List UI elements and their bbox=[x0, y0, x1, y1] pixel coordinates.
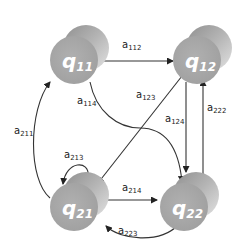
node-q11[interactable]: q11 bbox=[50, 25, 109, 84]
edge-a211 bbox=[34, 82, 51, 198]
state-diagram: q11 q12 q21 q22 a112 a114 a123 a124 a222 bbox=[0, 0, 239, 250]
node-q21-subscript: 21 bbox=[76, 207, 93, 221]
node-q22-subscript: 22 bbox=[186, 207, 203, 221]
node-q12[interactable]: q12 bbox=[173, 25, 232, 84]
label-a223: a223 bbox=[118, 225, 138, 238]
node-q21-label: q bbox=[62, 196, 76, 220]
label-a112: a112 bbox=[122, 39, 142, 52]
node-q12-label: q bbox=[185, 49, 199, 73]
node-q21[interactable]: q21 bbox=[50, 172, 109, 231]
node-q22-label: q bbox=[172, 196, 186, 220]
edge-a223 bbox=[106, 225, 178, 238]
node-q12-subscript: 12 bbox=[199, 60, 216, 74]
node-q11-subscript: 11 bbox=[76, 60, 93, 74]
label-a213: a213 bbox=[64, 149, 84, 162]
label-a123: a123 bbox=[136, 89, 156, 102]
label-a124: a124 bbox=[165, 113, 185, 126]
node-q11-label: q bbox=[62, 49, 76, 73]
label-a211: a211 bbox=[14, 125, 34, 138]
label-a114: a114 bbox=[77, 95, 97, 108]
node-q22[interactable]: q22 bbox=[160, 172, 219, 231]
label-a222: a222 bbox=[207, 102, 227, 115]
label-a214: a214 bbox=[122, 182, 142, 195]
